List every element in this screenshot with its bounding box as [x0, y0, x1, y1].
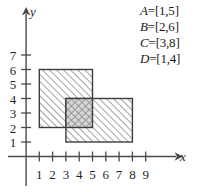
- x-tick-label: 9: [142, 167, 149, 182]
- legend-item-value: [1,5]: [155, 3, 179, 18]
- legend-item: C=[3,8]: [140, 35, 201, 51]
- legend-item: B=[2,6]: [140, 19, 201, 35]
- legend-item-name: A: [140, 3, 148, 18]
- x-tick-label: 3: [63, 167, 70, 182]
- legend-item-value: [3,8]: [156, 35, 180, 50]
- y-tick-label: 5: [10, 77, 17, 92]
- y-tick-label: 1: [10, 135, 17, 150]
- legend-item-name: D: [140, 51, 149, 66]
- y-tick-label: 6: [10, 63, 17, 78]
- y-tick-label: 4: [10, 92, 17, 107]
- x-tick-label: 4: [76, 167, 83, 182]
- x-tick-label: 2: [49, 167, 56, 182]
- rect-intersection: [66, 99, 93, 128]
- x-tick-label: 5: [89, 167, 96, 182]
- rect-intersection-group: [66, 99, 93, 128]
- legend-item-equals: =: [148, 19, 155, 34]
- y-tick-label: 3: [10, 106, 17, 121]
- y-tick-label: 7: [10, 48, 17, 63]
- legend-item-equals: =: [148, 3, 155, 18]
- legend: A=[1,5] B=[2,6] C=[3,8] D=[1,4]: [140, 3, 201, 67]
- legend-item-value: [2,6]: [155, 19, 179, 34]
- legend-item: A=[1,5]: [140, 3, 201, 19]
- x-tick-labels: 1 2 3 4 5 6 7 8 9: [36, 167, 149, 182]
- x-tick-label: 7: [116, 167, 123, 182]
- y-tick-labels: 1 2 3 4 5 6 7: [10, 48, 17, 150]
- legend-item: D=[1,4]: [140, 51, 201, 67]
- y-axis-label: y: [28, 4, 36, 19]
- legend-item-value: [1,4]: [156, 51, 180, 66]
- x-tick-label: 8: [129, 167, 136, 182]
- x-tick-label: 6: [103, 167, 110, 182]
- legend-item-name: B: [140, 19, 148, 34]
- x-axis-label: x: [179, 149, 186, 164]
- legend-item-equals: =: [148, 35, 155, 50]
- figure-container: 1 2 3 4 5 6 7 8 9 1 2 3 4 5 6 7 x y A=[1…: [0, 0, 201, 192]
- y-tick-label: 2: [10, 121, 17, 136]
- x-tick-label: 1: [36, 167, 43, 182]
